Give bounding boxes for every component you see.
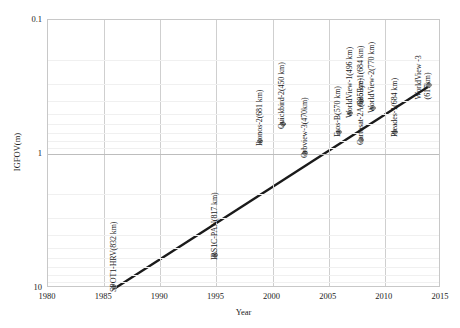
gridline-horizontal-minor bbox=[48, 235, 439, 236]
data-point-label: WorldView-2(770 km) bbox=[367, 42, 376, 113]
x-tick-label: 2000 bbox=[252, 291, 292, 301]
y-tick-label: 1 bbox=[2, 148, 42, 158]
data-point-label: Ikonos-2(681 km) bbox=[255, 90, 264, 146]
x-tick-label: 1995 bbox=[195, 291, 235, 301]
x-tick-label: 2015 bbox=[420, 291, 460, 301]
data-point-label: Cartosat-2A(635 km) bbox=[356, 78, 365, 145]
data-point-label: WorldView-1(496 km) bbox=[345, 47, 354, 118]
data-point-label: IRS1C-PAN(817 km) bbox=[210, 193, 219, 261]
gridline-horizontal-minor bbox=[48, 60, 439, 61]
gridline-horizontal-minor bbox=[48, 148, 439, 149]
gridline-horizontal-minor bbox=[48, 133, 439, 134]
gridline-horizontal-minor bbox=[48, 267, 439, 268]
x-axis-title: Year bbox=[184, 307, 304, 317]
x-tick-label: 2005 bbox=[308, 291, 348, 301]
x-tick-label: 1990 bbox=[139, 291, 179, 301]
gridline-horizontal-minor bbox=[48, 194, 439, 195]
x-tick-label: 2010 bbox=[364, 291, 404, 301]
data-point-label: Orbview-3(470km) bbox=[300, 97, 309, 158]
data-point-label: Pleades-1(684 km) bbox=[390, 78, 399, 137]
data-point-label: Quickbird-2(450 km) bbox=[277, 62, 286, 129]
gridline-horizontal-minor bbox=[48, 258, 439, 259]
y-tick-label: 10 bbox=[2, 282, 42, 292]
y-tick-label: 0.1 bbox=[2, 14, 42, 24]
data-point-label: Eros-B(570 km) bbox=[333, 86, 342, 137]
gridline-horizontal-minor bbox=[48, 124, 439, 125]
gridline-horizontal-minor bbox=[48, 101, 439, 102]
gridline-horizontal-minor bbox=[48, 114, 439, 115]
y-axis-title: IGFOV(m) bbox=[12, 107, 22, 197]
gridline-horizontal-minor bbox=[48, 282, 439, 283]
gridline-horizontal-major bbox=[48, 154, 439, 155]
gridline-horizontal-minor bbox=[48, 218, 439, 219]
gridline-horizontal-minor bbox=[48, 141, 439, 142]
gridline-horizontal-minor bbox=[48, 275, 439, 276]
igfov-chart: 198019851990199520002005201020150.1110 S… bbox=[0, 0, 460, 328]
gridline-horizontal-minor bbox=[48, 248, 439, 249]
plot-area bbox=[47, 19, 440, 287]
gridline-horizontal-minor bbox=[48, 84, 439, 85]
x-tick-label: 1980 bbox=[27, 291, 67, 301]
x-tick-label: 1985 bbox=[83, 291, 123, 301]
data-point-label: WorldView -3 (617km) bbox=[414, 55, 432, 99]
data-point-label: SPOT1-HRV(832 km) bbox=[109, 222, 118, 292]
